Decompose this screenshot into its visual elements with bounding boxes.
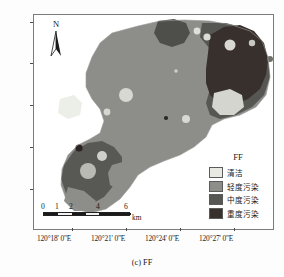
scale-bar-track bbox=[43, 212, 130, 216]
legend: FF 清洁 轻度污染 中度污染 重度污染 bbox=[209, 152, 267, 221]
scale-tick-label: 6 bbox=[124, 202, 128, 211]
scale-tick-label: 0 bbox=[41, 202, 45, 211]
scale-tick-label: 2 bbox=[69, 202, 73, 211]
north-arrow-icon bbox=[49, 30, 63, 58]
legend-label-moderate-pollution: 中度污染 bbox=[227, 194, 259, 205]
legend-item-light-pollution[interactable]: 轻度污染 bbox=[209, 181, 267, 192]
clean-patch-west bbox=[58, 95, 82, 119]
legend-label-heavy-pollution: 重度污染 bbox=[227, 208, 259, 219]
legend-swatch-light-pollution bbox=[209, 181, 223, 192]
north-arrow-label: N bbox=[45, 19, 67, 29]
longitude-tick-label: 120°24' 0"E bbox=[145, 234, 179, 243]
figure-panel: 31°15'0"N 31°12'0"N 31°9'0"N 31°6'0"N 31… bbox=[0, 0, 284, 277]
longitude-tick-mark bbox=[126, 228, 127, 231]
scale-bar-numbers: 0 1 2 4 6 bbox=[38, 202, 150, 212]
longitude-tick-mark bbox=[72, 228, 73, 231]
longitude-tick-label: 120°21' 0"E bbox=[91, 234, 125, 243]
clean-patch bbox=[97, 151, 107, 161]
scale-tick-label: 1 bbox=[55, 202, 59, 211]
scale-bar: 0 1 2 4 6 km bbox=[38, 202, 150, 224]
legend-item-moderate-pollution[interactable]: 中度污染 bbox=[209, 194, 267, 205]
clean-patch bbox=[104, 109, 111, 116]
scale-tick-label: 4 bbox=[96, 202, 100, 211]
dark-spot bbox=[75, 144, 82, 151]
legend-item-clean[interactable]: 清洁 bbox=[209, 167, 267, 178]
clean-patch bbox=[249, 40, 255, 46]
legend-title: FF bbox=[209, 152, 267, 162]
legend-label-light-pollution: 轻度污染 bbox=[227, 181, 259, 192]
clean-patch bbox=[225, 40, 236, 51]
legend-swatch-heavy-pollution bbox=[209, 208, 223, 219]
legend-swatch-moderate-pollution bbox=[209, 194, 223, 205]
north-arrow: N bbox=[45, 19, 67, 61]
dark-spot bbox=[164, 116, 168, 120]
clean-patch bbox=[203, 33, 210, 40]
clean-patch bbox=[80, 163, 96, 179]
clean-patch bbox=[174, 69, 177, 72]
legend-item-heavy-pollution[interactable]: 重度污染 bbox=[209, 208, 267, 219]
clean-patch bbox=[194, 28, 201, 35]
scale-bar-unit: km bbox=[132, 213, 141, 222]
longitude-tick-mark bbox=[234, 228, 235, 231]
figure-caption: (c) FF bbox=[0, 258, 284, 267]
map-canvas[interactable]: N 0 1 2 4 6 km FF bbox=[33, 14, 274, 230]
clean-patch bbox=[182, 115, 190, 123]
legend-label-clean: 清洁 bbox=[227, 167, 243, 178]
legend-swatch-clean bbox=[209, 167, 223, 178]
clean-patch bbox=[119, 88, 133, 102]
longitude-tick-label: 120°27' 0"E bbox=[199, 234, 233, 243]
longitude-tick-mark bbox=[180, 228, 181, 231]
longitude-tick-label: 120°18' 0"E bbox=[37, 234, 71, 243]
